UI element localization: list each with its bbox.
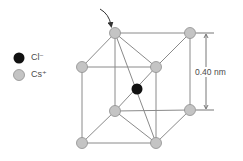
cscl-unit-cell-diagram	[0, 0, 243, 161]
cs-atom-front-bottom-left	[77, 138, 88, 149]
cs-atom-back-bottom-left	[110, 106, 121, 117]
cs-atom-back-top-left	[110, 28, 121, 39]
dimension-label: 0.40 nm	[194, 67, 227, 77]
cs-atom-front-bottom-right	[151, 138, 162, 149]
legend-cl-swatch-icon	[14, 53, 25, 64]
legend-cl-label: Cl⁻	[31, 52, 45, 62]
legend-cs-label: Cs⁺	[31, 69, 47, 79]
cs-atom-front-top-right	[151, 62, 162, 73]
cl-atom-center	[132, 84, 143, 95]
cs-atom-front-top-left	[77, 62, 88, 73]
cs-atom-back-top-right	[185, 28, 196, 39]
legend-cs-swatch-icon	[14, 70, 25, 81]
cs-atom-back-bottom-right	[185, 105, 196, 116]
pointer-arrow-icon	[100, 9, 111, 25]
